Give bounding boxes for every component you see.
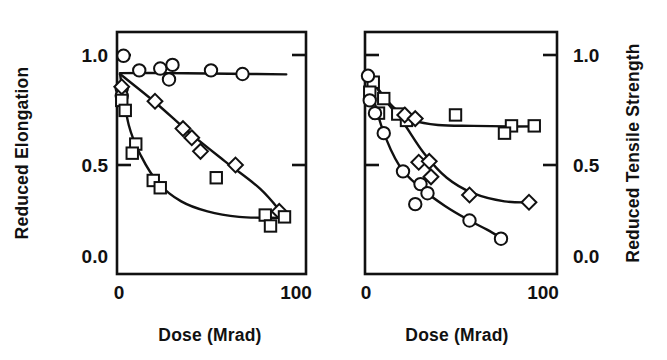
right-circle-marker-6 [421, 187, 433, 199]
left-circle-marker-6 [236, 68, 248, 80]
figure-canvas: Reduced Elongation 1.0 0.5 0.0 0 100 Dos… [0, 0, 667, 360]
left-y-tick-label-3: 0.0 [82, 246, 108, 267]
left-circle-marker-1 [133, 64, 145, 76]
right-x-tick-label-2: 100 [527, 282, 559, 303]
left-circle-marker-3 [166, 59, 178, 71]
left-square-marker-6 [211, 172, 222, 183]
right-square-marker-2 [378, 93, 389, 104]
right-circle-marker-4 [397, 165, 409, 177]
right-square-marker-8 [499, 127, 510, 138]
right-circle-marker-3 [378, 127, 390, 139]
right-circle-marker-0 [362, 70, 374, 82]
left-circle-marker-0 [117, 50, 129, 62]
left-x-tick-label-2: 100 [280, 282, 312, 303]
left-square-marker-1 [120, 105, 131, 116]
left-square-marker-9 [265, 220, 276, 231]
left-x-tick-label-1: 0 [114, 282, 125, 303]
left-diamond-marker-5 [228, 158, 243, 173]
left-circle-marker-5 [205, 64, 217, 76]
right-square-marker-6 [450, 109, 461, 120]
right-y-tick-label-2: 0.5 [573, 155, 600, 176]
left-fit-curves [120, 73, 288, 218]
left-y-tick-label-1: 1.0 [82, 45, 108, 66]
left-circle-marker-2 [154, 62, 166, 74]
left-panel-svg: Reduced Elongation 1.0 0.5 0.0 0 100 Dos… [0, 0, 333, 360]
right-square-marker-9 [529, 120, 540, 131]
left-square-marker-3 [127, 147, 138, 158]
left-square-marker-7 [260, 209, 271, 220]
right-y-axis-title: Reduced Tensile Strength [623, 43, 643, 262]
right-circle-marker-1 [364, 94, 376, 106]
chart-panel-right: Reduced Tensile Strength 1.0 0.5 0.0 0 1… [333, 0, 667, 360]
right-circle-marker-9 [495, 233, 507, 245]
left-square-marker-8 [279, 211, 290, 222]
right-diamond-marker-6 [522, 195, 537, 210]
right-fit-curves [368, 74, 538, 239]
right-x-tick-label-1: 0 [361, 282, 372, 303]
left-x-axis-title: Dose (Mrad) [158, 325, 261, 345]
right-plot-frame [365, 32, 557, 274]
left-circle-marker-4 [163, 73, 175, 85]
right-data-markers [362, 70, 540, 245]
right-panel-svg: Reduced Tensile Strength 1.0 0.5 0.0 0 1… [333, 0, 667, 360]
right-y-tick-label-1: 1.0 [573, 45, 599, 66]
left-y-tick-label-2: 0.5 [82, 155, 109, 176]
chart-panel-left: Reduced Elongation 1.0 0.5 0.0 0 100 Dos… [0, 0, 333, 360]
right-y-tick-label-3: 0.0 [573, 246, 599, 267]
right-circle-marker-7 [409, 198, 421, 210]
right-circle-marker-2 [369, 107, 381, 119]
right-circle-marker-8 [463, 214, 475, 226]
left-data-markers [114, 50, 290, 232]
left-y-axis-title: Reduced Elongation [12, 67, 32, 240]
right-x-axis-title: Dose (Mrad) [405, 325, 508, 345]
left-square-marker-5 [155, 182, 166, 193]
